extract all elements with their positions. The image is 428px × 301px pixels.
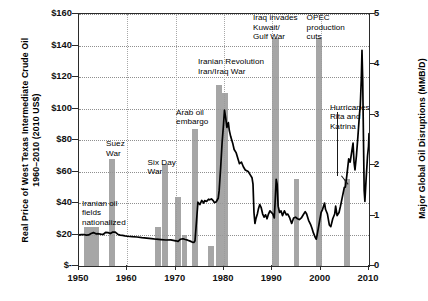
annotation-six-day-war: Six Day War (148, 158, 176, 177)
y-axis-right-tick-label: 4 (374, 57, 404, 68)
y-axis-right-tick-label: 1 (374, 209, 404, 220)
annotation-iranian-oil-fields: Iranian oil fields nationalized (82, 199, 126, 228)
plot-area: Iranian oil fields nationalizedSuez WarS… (78, 13, 370, 267)
x-axis-tick-label: 1980 (198, 272, 248, 283)
annotation-opec-production-cuts: OPEC production cuts (307, 13, 345, 42)
annotation-arab-oil-embargo: Arab oil embargo (176, 108, 208, 127)
y-axis-right-tick-label: 0 (374, 259, 404, 270)
y-axis-right-tick-label: 2 (374, 158, 404, 169)
annotation-iraq-invades-kuwait: Iraq invades Kuwait/ Gulf War (253, 13, 298, 42)
y-axis-right-tick-label: 3 (374, 108, 404, 119)
y-axis-left-tick-label: $80 (28, 133, 72, 144)
x-axis-tick-label: 1960 (101, 272, 151, 283)
x-axis-tick-label: 2010 (343, 272, 393, 283)
annotation-leader-line (337, 112, 338, 177)
y-axis-left-tick-label: $140 (28, 39, 72, 50)
y-axis-left-tick-label: $40 (28, 196, 72, 207)
annotation-iranian-revolution: Iranian Revolution Iran/Iraq War (198, 57, 264, 76)
x-axis-tick-label: 2000 (295, 272, 345, 283)
x-axis-tick-label: 1990 (246, 272, 296, 283)
y-axis-right-title: Major Global Oil Disruptions (MMB/D) (417, 30, 428, 248)
y-axis-left-tick-label: $160 (28, 7, 72, 18)
x-axis-tick-label: 1950 (53, 272, 103, 283)
y-axis-left-tick-label: $120 (28, 70, 72, 81)
y-axis-left-tick-label: $- (28, 259, 72, 270)
y-axis-left-tick-label: $60 (28, 165, 72, 176)
x-axis-tick-label: 1970 (150, 272, 200, 283)
y-axis-right-tick-label: 5 (374, 7, 404, 18)
y-axis-left-tick-label: $20 (28, 228, 72, 239)
y-axis-left-tick-label: $100 (28, 102, 72, 113)
annotation-suez-war: Suez War (106, 139, 125, 158)
